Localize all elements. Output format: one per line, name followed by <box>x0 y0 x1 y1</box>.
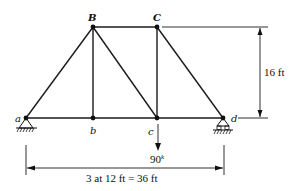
node-c <box>155 116 160 121</box>
node-B <box>91 25 96 30</box>
height-dimension-label: 16 ft <box>264 66 284 78</box>
truss-members <box>26 27 223 118</box>
label-a: a <box>15 113 21 124</box>
load-label: 90k <box>150 153 165 165</box>
label-C: C <box>153 12 161 23</box>
load-arrow-icon <box>155 124 161 151</box>
member-Bc <box>93 27 157 118</box>
truss-diagram: a b c d B C 90k <box>0 0 291 191</box>
node-b <box>91 116 96 121</box>
member-aB <box>26 27 93 118</box>
label-d: d <box>231 113 237 124</box>
height-dimension <box>162 27 268 118</box>
label-b: b <box>90 125 96 136</box>
roller-support-icon <box>213 118 233 134</box>
label-c: c <box>148 126 154 137</box>
span-dimension <box>26 145 224 175</box>
label-B: B <box>87 12 96 23</box>
member-Cd <box>157 27 223 118</box>
node-C <box>155 25 160 30</box>
span-dimension-label: 3 at 12 ft = 36 ft <box>86 172 158 184</box>
